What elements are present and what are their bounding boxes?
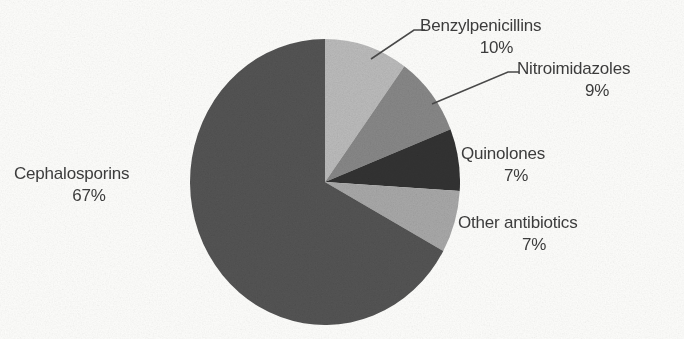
pie-label-cephalosporins: Cephalosporins 67% (14, 163, 184, 207)
pie-label-nitroimidazoles-name: Nitroimidazoles (517, 58, 684, 80)
pie-label-other-antibiotics-name: Other antibiotics (458, 212, 658, 234)
pie-label-nitroimidazoles: Nitroimidazoles 9% (517, 58, 684, 102)
leader-line-nitroimidazoles (432, 72, 519, 104)
pie-label-quinolones-name: Quinolones (461, 143, 621, 165)
pie-chart: Benzylpenicillins 10% Nitroimidazoles 9%… (0, 0, 684, 339)
pie-label-other-antibiotics: Other antibiotics 7% (458, 212, 658, 256)
pie-label-quinolones-percent: 7% (461, 165, 571, 187)
pie-label-other-antibiotics-percent: 7% (458, 234, 610, 256)
pie-label-nitroimidazoles-percent: 9% (517, 80, 677, 102)
pie-label-cephalosporins-name: Cephalosporins (14, 163, 184, 185)
pie-label-benzylpenicillins-percent: 10% (420, 37, 573, 59)
pie-label-cephalosporins-percent: 67% (14, 185, 164, 207)
pie-label-quinolones: Quinolones 7% (461, 143, 621, 187)
pie-label-benzylpenicillins: Benzylpenicillins 10% (420, 15, 620, 59)
pie-label-benzylpenicillins-name: Benzylpenicillins (420, 15, 620, 37)
